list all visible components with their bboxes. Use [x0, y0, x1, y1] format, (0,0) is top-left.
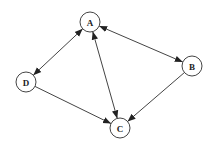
node-label: C: [117, 124, 124, 134]
node-b: B: [182, 56, 202, 76]
node-label: B: [189, 62, 195, 72]
node-label: D: [23, 78, 30, 88]
node-c: C: [110, 118, 130, 138]
graph-canvas: ABCD: [0, 0, 212, 152]
edge-a-b: [99, 26, 183, 62]
node-a: A: [80, 12, 100, 32]
edges: [33, 26, 184, 124]
edge-b-c: [128, 73, 185, 122]
nodes: ABCD: [16, 12, 202, 138]
node-d: D: [16, 72, 36, 92]
edge-a-d: [33, 29, 82, 75]
edge-a-c: [93, 32, 118, 119]
node-label: A: [87, 18, 94, 28]
edge-d-c: [35, 86, 111, 123]
